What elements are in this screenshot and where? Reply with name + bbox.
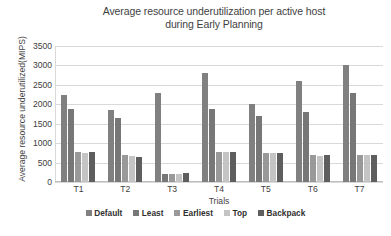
bar-least-t5[interactable] — [256, 116, 262, 182]
bar-earliest-t1[interactable] — [75, 152, 81, 182]
legend-label: Backpack — [267, 208, 306, 218]
bar-default-t1[interactable] — [61, 95, 67, 182]
x-axis-tick-label-t7: T7 — [336, 184, 383, 194]
legend-item-default[interactable]: Default — [86, 208, 123, 218]
gridline — [55, 182, 383, 183]
legend-item-earliest[interactable]: Earliest — [174, 208, 212, 218]
legend-item-top[interactable]: Top — [224, 208, 247, 218]
x-axis-tick-label-t5: T5 — [242, 184, 289, 194]
y-axis-tick-label: 0 — [16, 177, 52, 187]
bar-least-t4[interactable] — [209, 109, 215, 182]
x-axis-tick-label-t6: T6 — [289, 184, 336, 194]
bar-top-t5[interactable] — [270, 153, 276, 182]
chart-legend: DefaultLeastEarliestTopBackpack — [0, 208, 391, 218]
bar-default-t3[interactable] — [155, 93, 161, 182]
plot-area — [55, 46, 383, 182]
bar-groups — [55, 46, 383, 182]
x-axis-tick-label-t4: T4 — [196, 184, 243, 194]
bar-group-t2 — [102, 46, 149, 182]
bar-earliest-t2[interactable] — [122, 155, 128, 182]
legend-swatch-icon — [86, 210, 92, 216]
x-axis-tick-labels: T1T2T3T4T5T6T7 — [55, 184, 383, 194]
legend-swatch-icon — [133, 210, 139, 216]
bar-group-t7 — [336, 46, 383, 182]
bar-backpack-t5[interactable] — [277, 153, 283, 182]
bar-earliest-t6[interactable] — [310, 155, 316, 182]
y-axis-tick-labels: 3500300025002000150010005000 — [12, 46, 52, 182]
legend-label: Default — [94, 208, 122, 218]
bar-group-t4 — [196, 46, 243, 182]
legend-swatch-icon — [258, 210, 264, 216]
x-axis-tick-label-t2: T2 — [102, 184, 149, 194]
legend-swatch-icon — [224, 210, 230, 216]
y-axis-tick-label: 500 — [16, 158, 52, 168]
legend-swatch-icon — [174, 210, 180, 216]
y-axis-tick-label: 3000 — [16, 60, 52, 70]
bar-earliest-t4[interactable] — [216, 152, 222, 182]
bar-default-t6[interactable] — [296, 81, 302, 182]
bar-least-t6[interactable] — [303, 112, 309, 182]
bar-top-t2[interactable] — [129, 156, 135, 182]
bar-default-t2[interactable] — [108, 110, 114, 182]
bar-backpack-t6[interactable] — [324, 155, 330, 182]
bar-backpack-t3[interactable] — [183, 173, 189, 182]
bar-default-t5[interactable] — [249, 104, 255, 182]
bar-backpack-t7[interactable] — [371, 155, 377, 182]
bar-backpack-t2[interactable] — [136, 157, 142, 182]
bar-default-t7[interactable] — [343, 65, 349, 182]
bar-backpack-t1[interactable] — [89, 152, 95, 182]
legend-label: Top — [232, 208, 247, 218]
bar-least-t7[interactable] — [350, 93, 356, 182]
bar-default-t4[interactable] — [202, 73, 208, 182]
chart-title-line-2: during Early Planning — [46, 18, 382, 31]
y-axis-tick-label: 1000 — [16, 138, 52, 148]
bar-earliest-t7[interactable] — [357, 155, 363, 182]
x-axis-tick-label-t1: T1 — [55, 184, 102, 194]
y-axis-tick-label: 3500 — [16, 41, 52, 51]
legend-item-backpack[interactable]: Backpack — [258, 208, 305, 218]
legend-label: Earliest — [183, 208, 213, 218]
bar-group-t1 — [55, 46, 102, 182]
y-axis-tick-label: 2500 — [16, 80, 52, 90]
bar-backpack-t4[interactable] — [230, 152, 236, 182]
chart-title-line-1: Average resource underutilization per ac… — [103, 5, 326, 17]
y-axis-tick-label: 1500 — [16, 119, 52, 129]
legend-item-least[interactable]: Least — [133, 208, 163, 218]
chart-container: Average resource underutilization per ac… — [0, 0, 391, 236]
x-axis-title: Trials — [55, 196, 383, 206]
bar-top-t7[interactable] — [364, 155, 370, 182]
legend-label: Least — [142, 208, 164, 218]
bar-earliest-t5[interactable] — [263, 153, 269, 182]
chart-title: Average resource underutilization per ac… — [46, 5, 382, 31]
bar-group-t5 — [242, 46, 289, 182]
bar-group-t3 — [149, 46, 196, 182]
bar-top-t3[interactable] — [176, 174, 182, 182]
bar-group-t6 — [289, 46, 336, 182]
bar-least-t1[interactable] — [68, 109, 74, 182]
y-axis-tick-label: 2000 — [16, 99, 52, 109]
bar-top-t1[interactable] — [82, 153, 88, 182]
bar-least-t2[interactable] — [115, 118, 121, 182]
bar-top-t6[interactable] — [317, 156, 323, 182]
x-axis-tick-label-t3: T3 — [149, 184, 196, 194]
bar-least-t3[interactable] — [162, 174, 168, 182]
bar-earliest-t3[interactable] — [169, 174, 175, 182]
bar-top-t4[interactable] — [223, 152, 229, 182]
